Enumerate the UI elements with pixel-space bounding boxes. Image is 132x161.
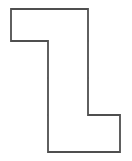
figure-outline bbox=[11, 9, 120, 152]
polyomino-figure bbox=[0, 0, 132, 161]
figure-canvas bbox=[0, 0, 132, 161]
